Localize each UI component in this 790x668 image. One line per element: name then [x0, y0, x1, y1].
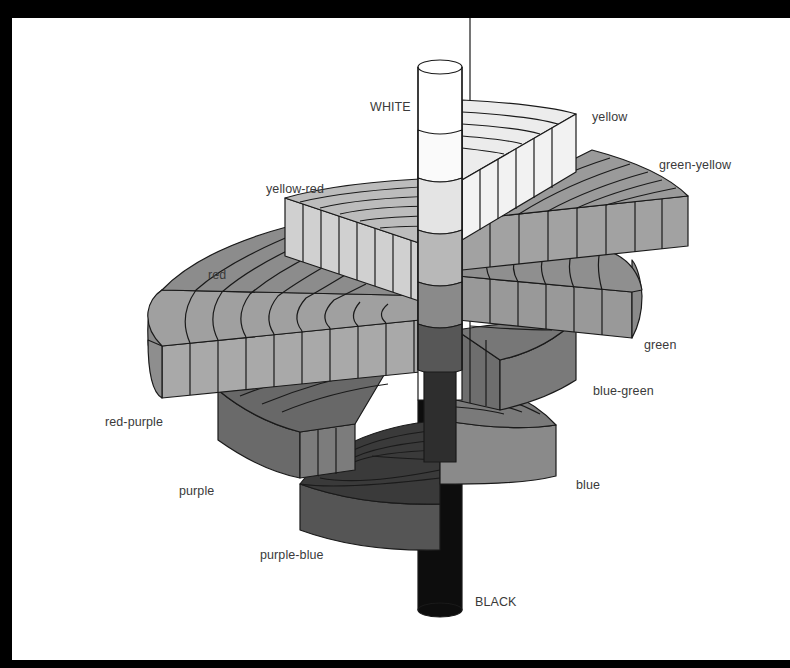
label-green-yellow: green-yellow	[659, 158, 731, 172]
label-red: red	[208, 268, 226, 282]
label-blue-green: blue-green	[593, 384, 654, 398]
label-purple-blue: purple-blue	[260, 548, 324, 562]
label-yellow: yellow	[592, 110, 627, 124]
label-white: WHITE	[370, 100, 411, 114]
label-purple: purple	[179, 484, 214, 498]
diagram-canvas: WHITE yellow green-yellow yellow-red red…	[12, 18, 790, 660]
value-axis	[418, 60, 462, 462]
label-red-purple: red-purple	[105, 415, 163, 429]
label-green: green	[644, 338, 676, 352]
label-black: BLACK	[475, 595, 517, 609]
label-yellow-red: yellow-red	[266, 182, 324, 196]
label-blue: blue	[576, 478, 600, 492]
slab-red-purple	[148, 290, 440, 398]
